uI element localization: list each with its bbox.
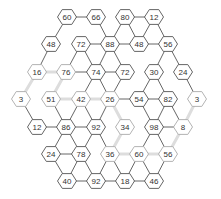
- cell-value: 72: [77, 40, 86, 49]
- cell-value: 34: [121, 123, 130, 132]
- cell-value: 24: [179, 68, 188, 77]
- hex-cell: 48: [42, 37, 61, 52]
- cell-value: 40: [63, 177, 72, 186]
- cell-value: 82: [164, 95, 173, 104]
- hex-cell: 42: [72, 92, 91, 107]
- cell-value: 54: [135, 95, 144, 104]
- cell-value: 46: [150, 177, 159, 186]
- hex-cell: 54: [130, 92, 149, 107]
- cell-value: 60: [135, 150, 144, 159]
- hex-cell: 66: [87, 10, 106, 25]
- hex-cell: 88: [101, 37, 120, 52]
- cell-value: 98: [150, 123, 159, 132]
- hex-cell: 8: [174, 120, 193, 135]
- hex-cell: 12: [145, 10, 164, 25]
- hex-cell: 34: [116, 120, 135, 135]
- cell-value: 88: [106, 40, 115, 49]
- cell-value: 12: [150, 13, 159, 22]
- hex-cells: 6066801248728848561676747230243514226548…: [12, 10, 207, 189]
- hex-cell: 76: [57, 65, 76, 80]
- cell-value: 18: [121, 177, 130, 186]
- cell-value: 36: [106, 150, 115, 159]
- hex-cell: 92: [87, 120, 106, 135]
- hex-cell: 60: [130, 147, 149, 162]
- cell-value: 48: [135, 40, 144, 49]
- cell-value: 30: [150, 68, 159, 77]
- cell-value: 16: [33, 68, 42, 77]
- hex-cell: 48: [130, 37, 149, 52]
- cell-value: 86: [62, 123, 71, 132]
- hex-cell: 80: [116, 10, 135, 25]
- cell-value: 26: [106, 95, 115, 104]
- cell-value: 78: [77, 150, 86, 159]
- hex-cell: 24: [42, 147, 61, 162]
- highlighted-path: [21, 72, 197, 154]
- cell-value: 66: [92, 13, 101, 22]
- hex-cell: 72: [72, 37, 91, 52]
- hex-cell: 3: [12, 92, 31, 107]
- cell-value: 56: [164, 40, 173, 49]
- cell-value: 80: [121, 13, 130, 22]
- cell-value: 3: [19, 95, 24, 104]
- hex-cell: 56: [159, 147, 178, 162]
- hex-cell: 98: [145, 120, 164, 135]
- hex-cell: 30: [145, 65, 164, 80]
- cell-value: 12: [33, 123, 42, 132]
- cell-value: 60: [63, 13, 72, 22]
- hex-cell: 92: [87, 174, 106, 189]
- hex-puzzle-board: 6066801248728848561676747230243514226548…: [0, 0, 221, 199]
- hex-cell: 40: [58, 174, 77, 189]
- hex-cell: 51: [42, 92, 61, 107]
- hex-cell: 26: [101, 92, 120, 107]
- cell-value: 3: [195, 95, 200, 104]
- hex-cell: 78: [72, 147, 91, 162]
- hex-cell: 74: [87, 65, 106, 80]
- cell-value: 51: [47, 95, 56, 104]
- hex-cell: 3: [188, 92, 207, 107]
- hex-cell: 60: [58, 10, 77, 25]
- cell-value: 42: [77, 95, 86, 104]
- hex-cell: 72: [116, 65, 135, 80]
- cell-value: 24: [47, 150, 56, 159]
- cell-value: 8: [181, 123, 186, 132]
- cell-value: 76: [62, 68, 71, 77]
- hex-cell: 36: [101, 147, 120, 162]
- cell-value: 72: [121, 68, 130, 77]
- cell-value: 56: [164, 150, 173, 159]
- hex-cell: 86: [57, 120, 76, 135]
- hex-cell: 56: [159, 37, 178, 52]
- hex-cell: 18: [116, 174, 135, 189]
- hex-cell: 12: [28, 120, 47, 135]
- cell-value: 48: [47, 40, 56, 49]
- hex-cell: 24: [174, 65, 193, 80]
- hex-cell: 46: [145, 174, 164, 189]
- cell-value: 92: [92, 177, 101, 186]
- hex-cell: 82: [159, 92, 178, 107]
- cell-value: 92: [92, 123, 101, 132]
- hex-cell: 16: [28, 65, 47, 80]
- cell-value: 74: [92, 68, 101, 77]
